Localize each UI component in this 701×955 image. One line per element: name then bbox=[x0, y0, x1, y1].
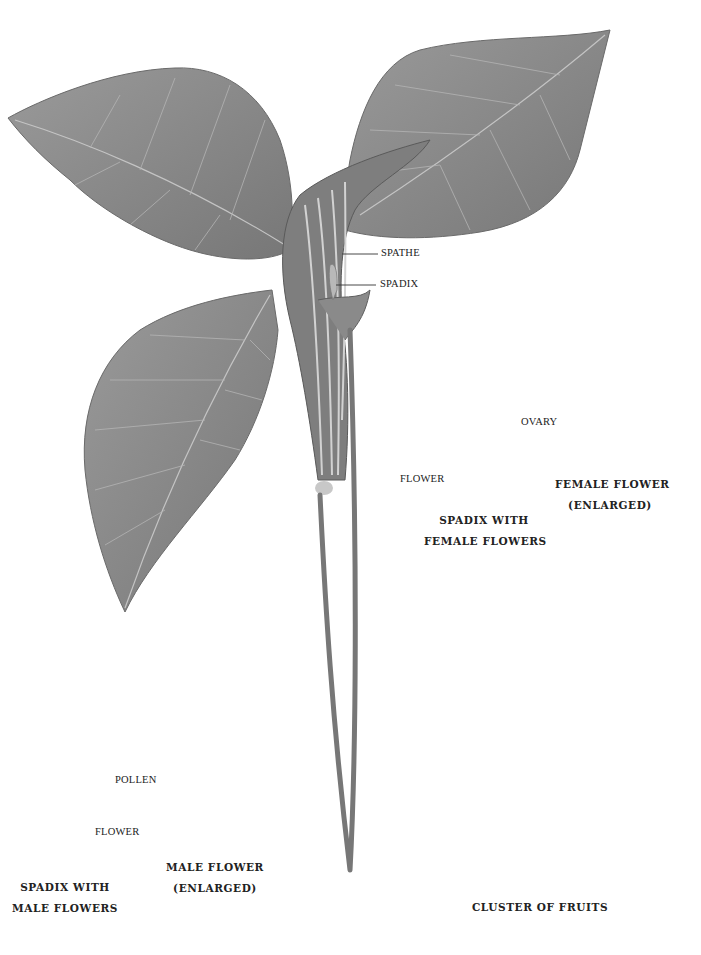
leaf-top-right bbox=[343, 30, 610, 238]
label-pollen: POLLEN bbox=[115, 774, 156, 785]
label-spathe: SPATHE bbox=[381, 247, 420, 258]
label-female-flower: FLOWER bbox=[400, 473, 444, 484]
caption-male-spadix-line1: SPADIX WITH bbox=[5, 877, 125, 898]
caption-male-flower-line1: MALE FLOWER bbox=[160, 857, 270, 878]
caption-female-spadix: SPADIX WITH FEMALE FLOWERS bbox=[424, 510, 544, 552]
caption-female-spadix-line2: FEMALE FLOWERS bbox=[424, 531, 544, 552]
caption-male-spadix: SPADIX WITH MALE FLOWERS bbox=[5, 877, 125, 919]
caption-male-flower: MALE FLOWER (ENLARGED) bbox=[160, 857, 270, 899]
label-male-flower: FLOWER bbox=[95, 826, 139, 837]
leaf-lower-left bbox=[84, 290, 278, 612]
label-ovary: OVARY bbox=[521, 416, 557, 427]
caption-fruit-cluster: CLUSTER OF FRUITS bbox=[470, 897, 610, 918]
label-spadix: SPADIX bbox=[380, 278, 418, 289]
caption-female-flower-line1: FEMALE FLOWER bbox=[555, 474, 665, 495]
caption-male-flower-line2: (ENLARGED) bbox=[160, 878, 270, 899]
caption-female-flower: FEMALE FLOWER (ENLARGED) bbox=[555, 474, 665, 516]
caption-male-spadix-line2: MALE FLOWERS bbox=[5, 898, 125, 919]
caption-female-flower-line2: (ENLARGED) bbox=[555, 495, 665, 516]
caption-female-spadix-line1: SPADIX WITH bbox=[424, 510, 544, 531]
leaf-top-left bbox=[8, 68, 292, 259]
